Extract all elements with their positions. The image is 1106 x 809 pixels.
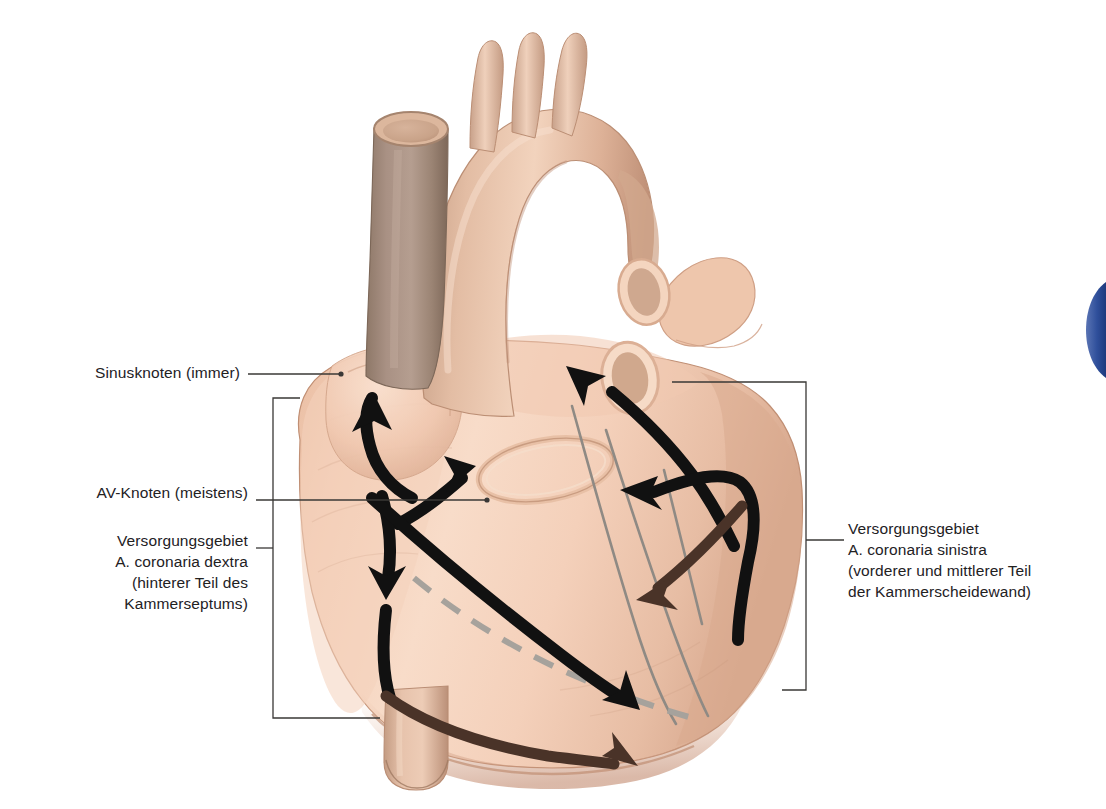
label-coronaria-sinistra: Versorgungsgebiet A. coronaria sinistra …	[848, 518, 1098, 602]
label-av-node: AV-Knoten (meistens)	[0, 482, 248, 503]
pulmonary-trunk	[366, 128, 448, 389]
pulmonary-trunk-highlight	[394, 150, 398, 368]
page-edge-marker	[1086, 282, 1106, 378]
label-coronaria-dextra: Versorgungsgebiet A. coronaria dextra (h…	[0, 530, 248, 614]
label-sinus-node: Sinusknoten (immer)	[0, 362, 240, 383]
leader-sinus-dot	[338, 371, 343, 376]
leader-av-dot	[484, 497, 489, 502]
heart-diagram-figure: Sinusknoten (immer) AV-Knoten (meistens)…	[0, 0, 1106, 809]
pulmonary-trunk-lumen	[383, 120, 439, 143]
heart-illustration-svg	[0, 0, 1106, 809]
arrow-av-down-tail	[383, 610, 390, 698]
